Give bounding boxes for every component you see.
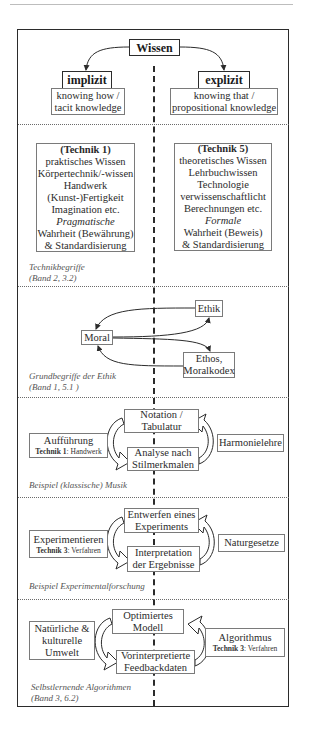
node-line: Optimiertes (123, 610, 173, 622)
technik-ref-rest: : Verfahren (67, 546, 100, 555)
node-line: Entwerfen eines (128, 509, 196, 521)
technik-ref: Technik 3 (36, 546, 67, 555)
technik-1-box: (Technik 1) praktisches Wissen Körpertec… (36, 143, 135, 252)
caption-ethik: Grundbegriffe der Ethik (Band 1, 5.1 ) (29, 371, 116, 393)
caption-line: (Band 3, 6.2) (31, 693, 131, 704)
ethos-line: Moralkodex (183, 365, 234, 377)
node-line: kulturelle (42, 635, 82, 647)
arrow-moral-ethos (113, 338, 210, 351)
root-node-wissen: Wissen (129, 39, 180, 56)
node-explizit: explizit (198, 71, 250, 89)
caption-algorithmus: Selbstlernende Algorithmen (Band 3, 6.2) (31, 682, 131, 704)
node-line: der Ergebnisse (133, 559, 195, 571)
technik-line: (Kunst-)Fertigkeit (47, 192, 123, 204)
arrow-wissen-implizit (86, 47, 129, 70)
desc-explizit: knowing that / propositional knowledge (170, 88, 278, 115)
technik-line: Berechnungen etc. (184, 203, 262, 215)
technik-line: praktisches Wissen (45, 156, 125, 168)
node-feedbackdaten: Vorinterpretierte Feedbackdaten (116, 650, 195, 674)
node-line: Umwelt (45, 647, 79, 659)
caption-line: Technikbegriffe (29, 262, 85, 273)
node-line: Vorinterpretierte (121, 650, 190, 662)
node-line: Modell (133, 622, 163, 634)
desc-line: knowing how / (57, 90, 120, 102)
node-line: Natürliche & (34, 623, 89, 635)
caption-line: (Band 1, 5.1 ) (29, 382, 116, 393)
technik-ref-rest: : Verfahren (244, 644, 277, 653)
node-title: Experimentieren (34, 534, 104, 546)
technik-line: & Standardisierung (45, 240, 127, 252)
node-entwerfen: Entwerfen eines Experiments (124, 508, 199, 533)
node-auffuehrung: Aufführung Technik 1: Handwerk (29, 433, 108, 458)
technik-line: verwissenschaftlicht (180, 191, 266, 203)
node-moral: Moral (81, 330, 113, 345)
node-experimentieren: Experimentieren Technik 3: Verfahren (29, 530, 108, 558)
node-title: Harmonielehre (219, 437, 282, 449)
technik-line: Imagination etc. (51, 204, 119, 216)
moral-label: Moral (84, 332, 110, 344)
technik-line: & Standardisierung (182, 239, 264, 251)
node-title: Naturgesetze (224, 537, 279, 549)
implizit-label: implizit (67, 73, 106, 87)
node-implizit: implizit (62, 71, 112, 89)
node-line: Tabulatur (141, 421, 181, 433)
technik-ref-rest: : Handwerk (67, 447, 102, 456)
node-line: Notation / (140, 409, 182, 421)
technik-5-box: (Technik 5) theoretisches Wissen Lehrbuc… (174, 143, 272, 251)
arrow-wissen-explizit (180, 47, 224, 70)
node-line: Interpretation (135, 547, 192, 559)
technik-heading: (Technik 1) (60, 144, 111, 156)
technik-line: Technologie (197, 179, 249, 191)
node-ethik: Ethik (195, 300, 223, 317)
node-title: Aufführung (44, 435, 93, 447)
technik-line: Wahrheit (Beweis) (184, 227, 263, 239)
technik-heading: (Technik 5) (198, 143, 249, 155)
caption-line: Selbstlernende Algorithmen (31, 682, 131, 693)
caption-musik: Beispiel (klassische) Musik (29, 480, 127, 491)
technik-line: theoretisches Wissen (179, 155, 267, 167)
caption-technik: Technikbegriffe (Band 2, 3.2) (29, 262, 85, 284)
node-ethos: Ethos, Moralkodex (183, 352, 235, 378)
node-analyse: Analyse nach Stilmerkmalen (127, 447, 199, 471)
node-harmonielehre: Harmonielehre (217, 434, 284, 452)
ethos-line: Ethos, (196, 353, 223, 365)
desc-implizit: knowing how / tacit knowledge (51, 88, 125, 115)
technik-italic: Pragmatische (56, 216, 114, 228)
arrow-moral-ethik (113, 318, 209, 337)
technik-line: Wahrheit (Bewährung) (37, 228, 133, 240)
node-line: Stilmerkmalen (132, 459, 194, 471)
caption-line: Grundbegriffe der Ethik (29, 371, 116, 382)
technik-line: Lehrbuchwissen (189, 167, 258, 179)
caption-experiment: Beispiel Experimentalforschung (29, 581, 145, 592)
node-umwelt: Natürliche & kulturelle Umwelt (29, 621, 95, 660)
technik-line: Handwerk (64, 180, 108, 192)
arrow-ethik-moral (96, 308, 195, 329)
node-title: Algorithmus (218, 632, 271, 644)
node-line: Feedbackdaten (124, 662, 187, 674)
node-notation: Notation / Tabulatur (124, 409, 199, 433)
explizit-label: explizit (205, 73, 242, 87)
desc-line: knowing that / (194, 90, 255, 102)
node-optimiertes-modell: Optimiertes Modell (112, 609, 184, 634)
node-algorithmus: Algorithmus Technik 3: Verfahren (205, 628, 285, 657)
node-interpretation: Interpretation der Ergebnisse (127, 546, 200, 572)
ethik-label: Ethik (198, 303, 221, 315)
node-line: Analyse nach (135, 447, 192, 459)
technik-ref: Technik 3 (213, 644, 244, 653)
arrow-ethos-moral (98, 346, 183, 366)
caption-line: (Band 2, 3.2) (29, 273, 85, 284)
desc-line: tacit knowledge (55, 102, 122, 114)
node-naturgesetze: Naturgesetze (218, 534, 285, 552)
technik-italic: Formale (205, 215, 241, 227)
node-line: Experiments (135, 521, 188, 533)
root-label: Wissen (136, 41, 172, 55)
technik-ref: Technik 1 (35, 447, 66, 456)
desc-line: propositional knowledge (172, 102, 276, 114)
technik-line: Körpertechnik/-wissen (38, 168, 134, 180)
